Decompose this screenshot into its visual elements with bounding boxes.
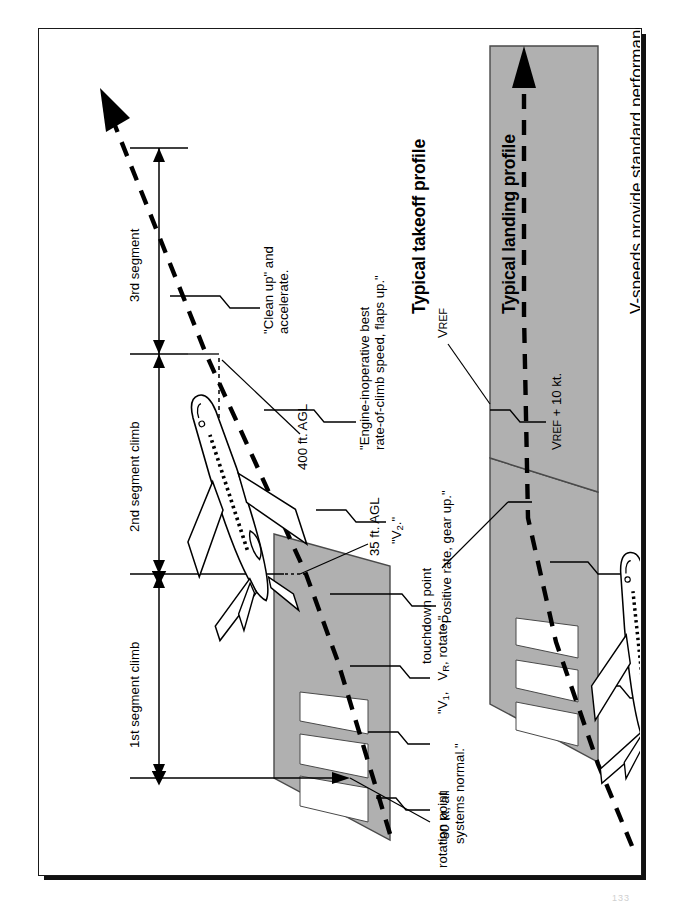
takeoff-profile-title: Typical takeoff profile [410,139,430,314]
callout-v2-label: "V2." [390,517,406,544]
vref-label: VREF [436,308,451,338]
callout-best-roc-label: "Engine-inoperative best rate-of-climb s… [358,275,388,450]
page-number: 133 [612,893,630,903]
body-line-1: V-speeds provide standard performance re… [627,28,640,314]
takeoff-path-arrowhead [100,88,130,132]
touchdown-point-label: touchdown point [420,568,435,664]
body-paragraph: V-speeds provide standard performance re… [586,28,640,314]
callout-80kt-label: "80 kt, all systems normal." [438,743,468,844]
landing-profile-title: Typical landing profile [500,134,520,314]
callout-positive-rate-label: "Positive rate, gear up." [440,490,455,628]
takeoff-runway [274,534,390,840]
vref-plus-10-label: VREF + 10 kt. [550,373,565,450]
rotated-figure-canvas: 1st segment climb 2nd segment climb 3rd … [38,28,640,874]
takeoff-segment-label-3: 3rd segment [128,229,143,302]
alt-35-label: 35 ft. AGL [368,497,383,556]
vref-label-leader [448,344,490,404]
callout-v1-label: "V1, VR, rotate." [436,615,452,714]
callout-clean-up-label: "Clean up" and accelerate. [262,246,292,334]
takeoff-segment-label-1: 1st segment climb [128,642,143,748]
alt-400-leader [222,360,300,434]
alt-400-label: 400 ft. AGL [296,404,311,470]
takeoff-segment-label-2: 2nd segment climb [128,421,143,532]
page-content-clip: 1st segment climb 2nd segment climb 3rd … [38,28,640,874]
